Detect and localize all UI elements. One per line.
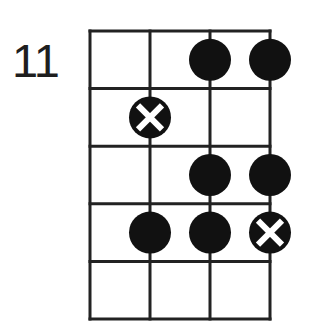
dot-icon — [189, 154, 231, 196]
dot-icon — [189, 212, 231, 254]
note-dot — [129, 212, 171, 254]
root-note-marker — [249, 212, 291, 254]
note-dot — [189, 154, 231, 196]
note-dot — [249, 39, 291, 81]
note-dot — [189, 212, 231, 254]
note-dot — [249, 154, 291, 196]
dot-icon — [249, 39, 291, 81]
dot-icon — [249, 154, 291, 196]
dot-icon — [189, 39, 231, 81]
fretboard-diagram — [0, 0, 311, 333]
dot-icon — [129, 212, 171, 254]
root-note-marker — [129, 96, 171, 138]
note-dot — [189, 39, 231, 81]
fretboard-grid — [90, 31, 270, 319]
